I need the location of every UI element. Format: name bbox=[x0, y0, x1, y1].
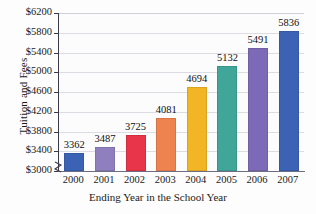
bar-value-label: 3487 bbox=[88, 133, 122, 144]
bar-value-label: 5836 bbox=[272, 17, 306, 28]
bar-rect bbox=[217, 66, 237, 171]
bar-chart: Tuition and Fees $6200$5800$5400$5000$46… bbox=[0, 0, 316, 214]
bar-rect bbox=[95, 147, 115, 171]
x-tick-label: 2007 bbox=[268, 174, 308, 185]
bar-rect bbox=[126, 135, 146, 171]
bar: 5132 bbox=[217, 13, 237, 171]
bar-value-label: 3725 bbox=[119, 121, 153, 132]
x-axis-title: Ending Year in the School Year bbox=[0, 191, 316, 203]
y-tick-label: $3400 bbox=[2, 144, 52, 155]
bar: 4694 bbox=[187, 13, 207, 171]
bar: 5491 bbox=[248, 13, 268, 171]
bar-rect bbox=[248, 48, 268, 171]
y-tick-label: $5400 bbox=[2, 46, 52, 57]
plot-area: 33623487372540814694513254915836 bbox=[58, 13, 303, 171]
bar-rect bbox=[156, 118, 176, 171]
bar: 3487 bbox=[95, 13, 115, 171]
bar-rect bbox=[279, 31, 299, 171]
bar-rect bbox=[187, 87, 207, 171]
y-tick-label: $5800 bbox=[2, 26, 52, 37]
bar-value-label: 3362 bbox=[57, 139, 91, 150]
bar: 4081 bbox=[156, 13, 176, 171]
y-tick-label: $4200 bbox=[2, 105, 52, 116]
axis-break-icon bbox=[53, 160, 65, 174]
y-tick-label: $6200 bbox=[2, 6, 52, 17]
bar-value-label: 5491 bbox=[241, 34, 275, 45]
y-tick-label: $3800 bbox=[2, 125, 52, 136]
bar-value-label: 5132 bbox=[210, 52, 244, 63]
y-tick-label: $4600 bbox=[2, 85, 52, 96]
bar: 5836 bbox=[279, 13, 299, 171]
bar: 3362 bbox=[64, 13, 84, 171]
bar-rect bbox=[64, 153, 84, 171]
y-tick-label: $5000 bbox=[2, 65, 52, 76]
bar: 3725 bbox=[126, 13, 146, 171]
bar-value-label: 4081 bbox=[149, 104, 183, 115]
bar-value-label: 4694 bbox=[180, 73, 214, 84]
x-axis-line bbox=[58, 171, 305, 172]
y-tick-label: $3000 bbox=[2, 164, 52, 175]
